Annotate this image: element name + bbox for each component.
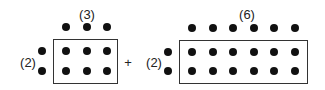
dot <box>291 24 299 32</box>
dot <box>229 24 237 32</box>
dot <box>250 48 258 56</box>
dot <box>250 67 258 75</box>
dot <box>164 67 172 75</box>
dot <box>250 24 258 32</box>
dot <box>270 48 278 56</box>
dot <box>291 67 299 75</box>
dot <box>188 24 196 32</box>
dot <box>83 23 91 31</box>
right-top-label: (6) <box>239 8 255 21</box>
dot <box>270 67 278 75</box>
dot <box>83 47 91 55</box>
dot <box>229 48 237 56</box>
dot <box>229 67 237 75</box>
dot <box>103 23 111 31</box>
dot <box>103 47 111 55</box>
dot <box>38 67 46 75</box>
dot <box>62 67 70 75</box>
dot <box>188 48 196 56</box>
dot <box>164 48 172 56</box>
left-side-label: (2) <box>20 56 36 69</box>
dot <box>209 24 217 32</box>
dot <box>38 47 46 55</box>
right-side-label: (2) <box>146 56 162 69</box>
dot <box>209 48 217 56</box>
dot <box>291 48 299 56</box>
dot <box>103 67 111 75</box>
dot <box>188 67 196 75</box>
dot <box>209 67 217 75</box>
dot <box>270 24 278 32</box>
dot <box>83 67 91 75</box>
left-top-label: (3) <box>79 8 95 21</box>
dot <box>62 23 70 31</box>
left-array-box <box>53 39 118 84</box>
dot <box>62 47 70 55</box>
plus-sign: + <box>124 56 132 69</box>
right-array-box <box>179 40 308 84</box>
